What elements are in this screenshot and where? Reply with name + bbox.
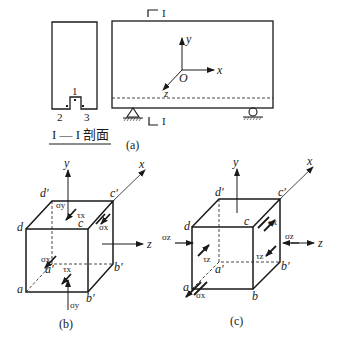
c-sigma-x-bottom: σx [196, 290, 206, 300]
b-sigma-x-left: σx [41, 254, 51, 264]
b-sigma-y-bottom: σy [70, 300, 80, 310]
roller-support-icon [243, 108, 263, 120]
c-vertex-a: a [183, 280, 189, 294]
axis-x-label: x [216, 63, 223, 77]
figure-b: y x z a d d′ c′ c a′ b′ b′ σy τx σx σx τ… [17, 156, 152, 331]
b-axis-y-label: y [63, 156, 70, 170]
b-vertex-a: a [17, 282, 23, 296]
b-axis-z-label: z [146, 237, 152, 251]
c-vertex-d: d [184, 219, 191, 233]
cross-section: 1 2 3 I — I 剖面 [49, 22, 111, 144]
c-sigma-z-right: σz [285, 231, 294, 241]
c-vertex-b: b [252, 289, 258, 303]
b-sigma-x-right: σx [99, 222, 109, 232]
beam: I I y x z O [112, 7, 273, 127]
point-1-label: 1 [72, 85, 78, 97]
axis-z-label: z [163, 87, 169, 99]
axis-y-label: y [185, 32, 192, 46]
stress-diagram: 1 2 3 I — I 剖面 I I [0, 0, 339, 344]
figure-c: y x z a b c d a′ b′ c′ d′ σz τz σx σz τz… [162, 154, 323, 328]
b-tau-x-bottom: τx [63, 264, 72, 274]
caption-b: (b) [59, 317, 73, 331]
point-3-label: 3 [84, 111, 90, 123]
c-vertex-c: c [244, 214, 250, 228]
point-2-label: 2 [57, 111, 63, 123]
b-vertex-b-prime-back: b′ [114, 260, 123, 274]
caption-c: (c) [230, 314, 243, 328]
c-vertex-a-prime: a′ [215, 262, 224, 276]
origin-label: O [179, 71, 188, 85]
c-sigma-z-left: σz [162, 232, 171, 242]
c-vertex-c-prime: c′ [278, 185, 286, 199]
c-tau-z-front: τz [203, 254, 211, 264]
figure-a: 1 2 3 I — I 剖面 I I [49, 7, 273, 152]
caption-a: (a) [126, 138, 139, 152]
b-vertex-b-prime-front: b′ [86, 291, 95, 305]
section-marker-bottom: I [162, 115, 166, 127]
c-axis-y-label: y [232, 155, 239, 169]
b-sigma-y-top: σy [56, 200, 66, 210]
b-axis-x-label: x [138, 157, 145, 171]
c-sigma-x-top: σx [268, 217, 278, 227]
c-vertex-d-prime: d′ [215, 185, 224, 199]
b-vertex-d-prime: d′ [40, 186, 49, 200]
c-axis-z-label: z [317, 236, 323, 250]
section-title: I — I 剖面 [52, 127, 109, 142]
section-marker-top: I [162, 7, 166, 19]
cube-c [192, 199, 280, 289]
c-axis-x-label: x [306, 154, 313, 168]
cube-b [26, 201, 113, 292]
b-vertex-d: d [17, 220, 24, 234]
c-vertex-b-prime: b′ [281, 259, 290, 273]
b-vertex-c-prime: c′ [110, 186, 118, 200]
b-tau-x-top: τx [77, 210, 86, 220]
pin-support-icon [123, 108, 143, 121]
c-tau-z-right: τz [256, 251, 264, 261]
